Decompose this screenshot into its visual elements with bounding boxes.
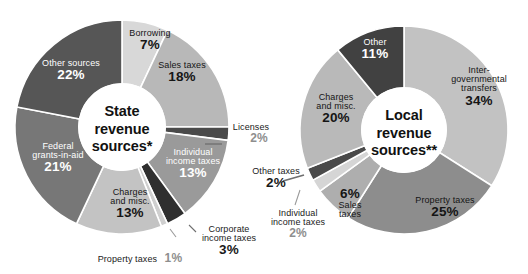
state-label-federal-grants: Federal grants-in-aid 21% bbox=[14, 142, 102, 174]
state-borrowing-pct: 7% bbox=[108, 38, 192, 52]
local-label-property-taxes: Property taxes 25% bbox=[390, 196, 500, 219]
property-taxes-leader-line bbox=[170, 229, 176, 237]
state-property-taxes-pct: 1% bbox=[165, 251, 183, 265]
state-individual-income-taxes-pct: 13% bbox=[153, 166, 233, 180]
local-charges-pct: 20% bbox=[298, 111, 374, 125]
state-label-individual-income-taxes: Individual income taxes 13% bbox=[153, 148, 233, 180]
local-label-other: Other 11% bbox=[344, 38, 406, 61]
local-individual-income-taxes-pct: 2% bbox=[253, 227, 343, 239]
local-center-line3: sources** bbox=[354, 142, 454, 160]
state-center-line1: State bbox=[72, 103, 172, 121]
local-label-charges-and-misc: Charges and misc. 20% bbox=[298, 93, 374, 125]
state-corporate-income-taxes-pct: 3% bbox=[190, 243, 268, 257]
state-other-sources-pct: 22% bbox=[23, 68, 119, 82]
state-licenses-pct: 2% bbox=[234, 132, 284, 144]
state-label-charges-and-misc: Charges and misc. 13% bbox=[93, 188, 167, 220]
state-charges-pct: 13% bbox=[93, 206, 167, 220]
state-label-other-sources: Other sources 22% bbox=[23, 59, 119, 82]
state-center-line2: revenue bbox=[72, 121, 172, 139]
local-label-individual-income-taxes: Individual income taxes 2% bbox=[253, 209, 343, 240]
state-sales-taxes-pct: 18% bbox=[139, 70, 225, 84]
state-label-borrowing: Borrowing 7% bbox=[108, 29, 192, 52]
local-intergov-pct: 34% bbox=[436, 94, 522, 108]
state-property-taxes-name: Property taxes bbox=[98, 254, 157, 264]
local-other-pct: 11% bbox=[344, 47, 406, 61]
local-property-taxes-pct: 25% bbox=[390, 205, 500, 219]
local-label-intergovernmental: Inter- governmental transfers 34% bbox=[436, 66, 522, 107]
local-center-line2: revenue bbox=[354, 125, 454, 143]
individual-income-taxes-leader-line bbox=[295, 190, 300, 205]
figure-canvas: State revenue sources* Borrowing 7% Sale… bbox=[0, 0, 528, 274]
state-federal-grants-pct: 21% bbox=[14, 160, 102, 174]
state-label-licenses: Licenses 2% bbox=[218, 123, 284, 144]
state-label-property-taxes: Property taxes 1% bbox=[82, 249, 198, 265]
local-label-other-taxes: Other taxes 2% bbox=[238, 167, 314, 190]
local-sales-taxes-pct: 6% bbox=[326, 187, 374, 201]
local-other-taxes-pct: 2% bbox=[238, 176, 314, 190]
state-label-sales-taxes: Sales taxes 18% bbox=[139, 61, 225, 84]
